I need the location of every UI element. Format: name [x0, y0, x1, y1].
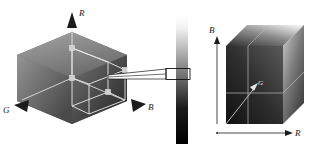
strip-body: [176, 16, 188, 144]
right-panel-projected-cube: G B R: [209, 25, 304, 138]
axis-R-right: R: [217, 128, 301, 138]
triangle-up-icon: [67, 12, 77, 28]
axis-label-B-left: B: [148, 102, 154, 112]
axis-label-R-left: R: [78, 8, 85, 18]
axis-B-left: B: [131, 99, 154, 112]
arrow-right-icon: [285, 130, 293, 136]
axis-label-R-right: R: [294, 128, 301, 138]
figure-canvas: R G B: [0, 0, 310, 162]
arrow-up-icon: [214, 36, 220, 44]
origin-marker: [216, 132, 218, 134]
figure-root: R G B: [0, 0, 310, 162]
axis-B-right: B: [209, 25, 220, 124]
axis-label-G-right: G: [258, 79, 263, 87]
axis-label-G-left: G: [3, 105, 10, 115]
grayscale-gradient-strip: [166, 16, 190, 144]
left-panel-isometric-cube: R G B: [3, 8, 154, 124]
axis-label-B-right: B: [209, 25, 215, 35]
axis-R-left: R: [67, 8, 85, 36]
triangle-right-icon: [131, 99, 146, 112]
axis-G-left: G: [3, 100, 29, 115]
